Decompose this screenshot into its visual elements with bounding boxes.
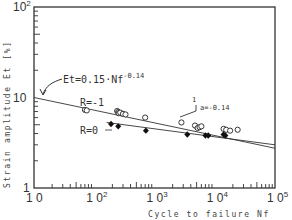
x-tick-label: 1 03 [147, 190, 169, 205]
equation-text: Et=0.15·Nf [63, 74, 123, 85]
open-circle-marker [228, 128, 233, 133]
fit-line [34, 98, 275, 149]
filled-diamond-marker [143, 127, 149, 133]
axis-ticks [34, 11, 272, 188]
y-tick-label: 1 [23, 181, 30, 195]
series-label-r-0: R=0 [80, 125, 98, 136]
x-tick-label: 1 05 [267, 190, 289, 205]
y-axis-title: Strain amplitude Et [%] [3, 40, 12, 188]
open-circle-marker [179, 120, 184, 125]
filled-diamond-marker [108, 121, 114, 127]
y-tick-label: 102 [13, 0, 31, 14]
series-label-r-minus-1: R=-1 [80, 97, 104, 108]
open-circle-marker [199, 124, 204, 129]
x-tick-label: 1 02 [86, 190, 108, 205]
fatigue-chart: 1 01 021 031 041 05110102 Strain amplitu… [0, 0, 292, 220]
fit-lines [34, 98, 275, 149]
fit-line [107, 122, 275, 144]
y-tick-label: 10 [13, 91, 27, 105]
open-circle-marker [84, 108, 89, 113]
open-circle-marker [235, 127, 240, 132]
slope-run-label: 1 [192, 96, 196, 104]
x-axis-title: Cycle to failure Nf [148, 210, 270, 219]
plot-frame [34, 7, 275, 188]
open-circle-marker [123, 112, 128, 117]
slope-triangle: 1 a=-0.14 [180, 96, 230, 117]
tick-labels: 1 01 021 031 041 05110102 [13, 0, 289, 205]
filled-diamond-marker [184, 131, 190, 137]
equation-exponent: -0.14 [123, 72, 144, 80]
callout-arrow [43, 79, 62, 94]
slope-label: a=-0.14 [200, 104, 230, 112]
x-tick-label: 1 04 [207, 190, 229, 205]
open-circle-marker [143, 115, 148, 120]
equation-annotation: Et=0.15·Nf-0.14 [40, 72, 144, 95]
svg-text:Et=0.15·Nf-0.14: Et=0.15·Nf-0.14 [63, 72, 144, 85]
